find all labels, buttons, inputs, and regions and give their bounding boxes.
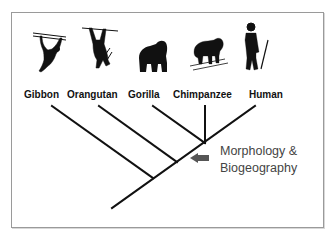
annotation-line-1: Morphology & (220, 143, 297, 159)
human-silhouette-icon (245, 23, 268, 70)
branch-gorilla (153, 106, 205, 143)
annotation-line-2: Biogeography (220, 160, 297, 176)
taxon-label-chimpanzee: Chimpanzee (173, 89, 232, 100)
chimpanzee-silhouette-icon (190, 38, 228, 70)
taxon-label-orangutan: Orangutan (67, 89, 118, 100)
phylogenetic-tree (0, 0, 331, 235)
taxon-label-human: Human (249, 89, 283, 100)
orangutan-silhouette-icon (82, 28, 118, 68)
branch-gibbon (52, 106, 153, 178)
gibbon-silhouette-icon (33, 33, 66, 72)
taxon-label-gibbon: Gibbon (24, 89, 59, 100)
left-arrow-icon (190, 153, 209, 163)
gorilla-silhouette-icon (139, 41, 167, 72)
taxon-label-gorilla: Gorilla (128, 89, 160, 100)
